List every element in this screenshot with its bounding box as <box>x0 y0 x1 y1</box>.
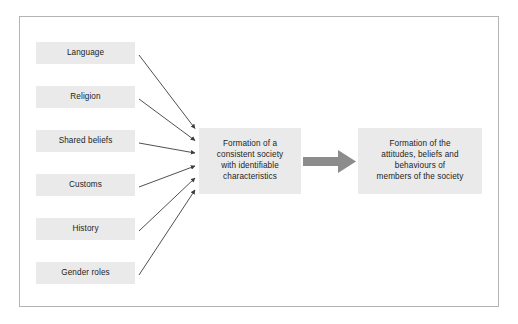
center-box-consistent-society: Formation of a consistent society with i… <box>199 128 301 194</box>
center-box-label: Formation of a consistent society with i… <box>217 139 283 182</box>
outcome-box-members-attitudes: Formation of the attitudes, beliefs and … <box>358 128 482 194</box>
source-label-shared-beliefs: Shared beliefs <box>59 136 113 147</box>
outcome-box-label: Formation of the attitudes, beliefs and … <box>377 139 464 182</box>
source-box-customs: Customs <box>36 174 135 196</box>
source-label-history: History <box>72 224 98 235</box>
source-box-religion: Religion <box>36 86 135 108</box>
source-label-religion: Religion <box>70 92 100 103</box>
source-box-gender-roles: Gender roles <box>36 262 135 284</box>
source-box-language: Language <box>36 42 135 64</box>
source-label-language: Language <box>67 48 104 59</box>
source-label-gender-roles: Gender roles <box>61 268 110 279</box>
source-label-customs: Customs <box>69 180 102 191</box>
diagram-canvas: Language Religion Shared beliefs Customs… <box>0 0 518 324</box>
source-box-history: History <box>36 218 135 240</box>
source-box-shared-beliefs: Shared beliefs <box>36 130 135 152</box>
